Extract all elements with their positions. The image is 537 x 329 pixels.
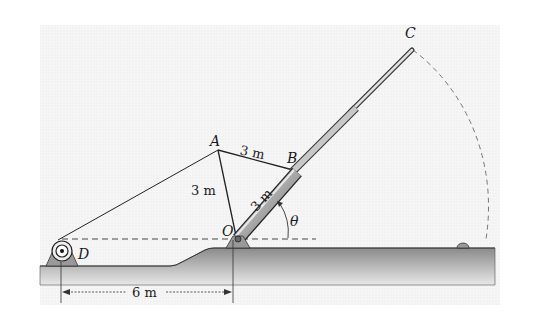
winch-pin-D — [60, 249, 64, 253]
dimension-AO: 3 m — [191, 183, 216, 198]
label-C: C — [405, 25, 416, 41]
label-O: O — [222, 223, 234, 239]
pivot-pin-O — [235, 236, 241, 242]
label-B: B — [286, 150, 297, 166]
mechanism-diagram: C A B O D θ 3 m 3 m 3 m 6 m — [0, 0, 537, 329]
dimension-DO: 6 m — [132, 285, 157, 300]
label-D: D — [77, 246, 89, 262]
label-theta: θ — [290, 213, 299, 229]
label-A: A — [208, 133, 220, 149]
diagram-canvas: C A B O D θ 3 m 3 m 3 m 6 m — [0, 0, 537, 329]
